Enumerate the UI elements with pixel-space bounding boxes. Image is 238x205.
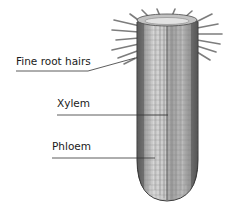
root-diagram: Fine root hairs Xylem Phloem [0,0,238,205]
root-illustration [0,0,238,205]
label-fine-root-hairs: Fine root hairs [16,55,91,67]
label-phloem: Phloem [52,140,91,152]
label-xylem: Xylem [57,97,90,109]
